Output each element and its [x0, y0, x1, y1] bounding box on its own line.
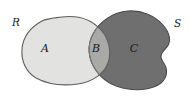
region-label-a: A: [40, 42, 49, 55]
region-label-c: C: [130, 42, 139, 55]
set-label-s: S: [174, 17, 181, 29]
region-label-b: B: [91, 42, 100, 55]
venn-diagram-figure: R S A B C: [0, 0, 190, 96]
set-label-r: R: [11, 16, 20, 28]
venn-diagram-canvas: R S A B C: [0, 0, 190, 96]
